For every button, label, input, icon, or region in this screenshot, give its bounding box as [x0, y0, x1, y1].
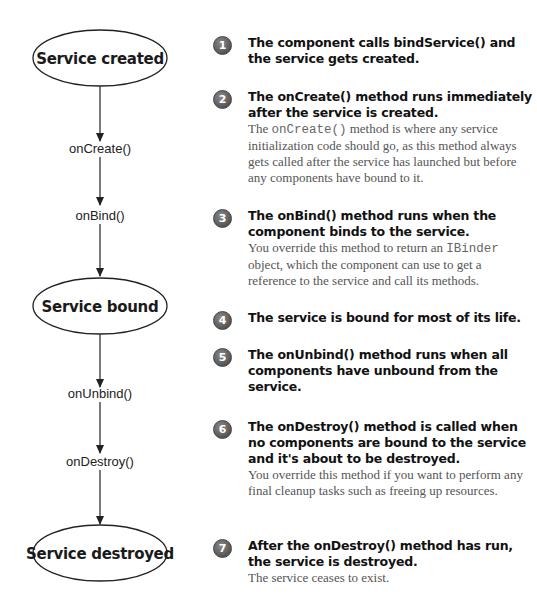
step-heading: The component calls bindService() and th…: [248, 35, 533, 67]
step-number-badge: 2: [213, 90, 232, 109]
step-heading: After the onDestroy() method has run, th…: [248, 538, 533, 570]
method-label-onbind: onBind(): [75, 208, 124, 223]
step-heading: The onUnbind() method runs when all comp…: [248, 347, 533, 395]
step-description: The onCreate() method is where any servi…: [248, 121, 533, 186]
step-number-badge: 4: [213, 311, 232, 330]
step-heading: The onCreate() method runs immediately a…: [248, 89, 533, 121]
step-heading: The onDestroy() method is called when no…: [248, 419, 533, 467]
desc-text: The: [248, 121, 271, 136]
step-3: 3 The onBind() method runs when the comp…: [213, 208, 533, 289]
step-heading: The onBind() method runs when the compon…: [248, 208, 533, 240]
step-number-badge: 1: [213, 36, 232, 55]
step-heading: The service is bound for most of its lif…: [248, 310, 533, 326]
step-5: 5 The onUnbind() method runs when all co…: [213, 347, 533, 395]
state-label-created: Service created: [36, 50, 164, 68]
step-number-badge: 7: [213, 539, 232, 558]
method-label-onunbind: onUnbind(): [68, 386, 132, 401]
step-2: 2 The onCreate() method runs immediately…: [213, 89, 533, 186]
step-number-badge: 5: [213, 348, 232, 367]
method-label-oncreate: onCreate(): [69, 141, 131, 156]
state-label-bound: Service bound: [42, 298, 159, 316]
desc-text: You override this method to return an: [248, 240, 446, 255]
step-1: 1 The component calls bindService() and …: [213, 35, 533, 67]
code-oncreate: onCreate(): [271, 123, 346, 137]
desc-text: object, which the component can use to g…: [248, 257, 482, 288]
step-6: 6 The onDestroy() method is called when …: [213, 419, 533, 499]
step-description: You override this method if you want to …: [248, 467, 533, 499]
step-number-badge: 3: [213, 209, 232, 228]
step-number-badge: 6: [213, 420, 232, 439]
method-label-ondestroy: onDestroy(): [66, 454, 134, 469]
state-label-destroyed: Service destroyed: [26, 545, 174, 563]
step-7: 7 After the onDestroy() method has run, …: [213, 538, 533, 586]
step-description: The service ceases to exist.: [248, 570, 533, 586]
step-4: 4 The service is bound for most of its l…: [213, 310, 533, 326]
code-ibinder: IBinder: [446, 242, 499, 256]
step-description: You override this method to return an IB…: [248, 240, 533, 289]
